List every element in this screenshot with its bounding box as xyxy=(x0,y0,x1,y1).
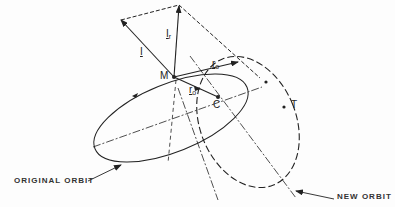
new-orbit-label: NEW ORBIT xyxy=(337,193,392,201)
new-orbit xyxy=(178,41,318,203)
original-orbit-direction-arrow xyxy=(132,93,138,98)
radial-impulse-vector xyxy=(174,6,179,77)
radius-subscript: o xyxy=(192,89,196,96)
original-orbit-major-axis xyxy=(93,87,262,147)
radial-impulse-subscript: r xyxy=(169,33,171,40)
point-m xyxy=(172,75,176,79)
impulse-parallelogram xyxy=(121,5,260,78)
radius-primed-subscript: o xyxy=(215,63,219,70)
point-t-marker-2 xyxy=(282,105,285,108)
original-orbit-minor-axis xyxy=(168,80,176,163)
point-m-label: M xyxy=(160,71,168,81)
point-c-label: C xyxy=(213,100,220,110)
impulse-label: I xyxy=(140,47,143,57)
radius-primed-label: ro xyxy=(212,59,219,70)
original-orbit-label: ORIGINAL ORBIT xyxy=(14,177,94,185)
radius-label: ro xyxy=(189,85,196,96)
new-orbit-pointer xyxy=(296,191,334,199)
radial-impulse-label: Ir xyxy=(166,29,171,40)
point-t-label: T xyxy=(291,100,297,110)
new-orbit-major-axis xyxy=(190,56,296,198)
point-t-marker-1 xyxy=(264,80,267,83)
